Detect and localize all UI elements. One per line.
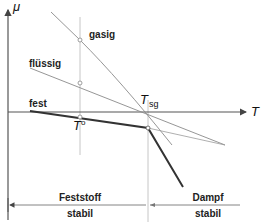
liquid-t-zero-point [78, 81, 82, 85]
diagram-canvas [0, 0, 268, 224]
solid-region-subtitle: stabil [67, 209, 93, 219]
solid-curve-label: fest [29, 99, 47, 109]
liquid-curve-label: flüssig [29, 59, 61, 69]
liquid-curve [30, 68, 225, 145]
solid-curve [30, 111, 183, 187]
vapor-region-arrowhead [150, 203, 155, 207]
t-zero-label: To [73, 119, 85, 132]
solid-region-title: Feststoff [59, 193, 101, 203]
liquid-solid-extension [148, 128, 225, 145]
gas-curve-label: gasig [89, 30, 115, 40]
x-axis-label: T [251, 105, 259, 118]
vapor-region-subtitle: stabil [195, 209, 221, 219]
t-sg-label: Tsg [140, 93, 158, 106]
t-sg-point [146, 126, 150, 130]
vapor-region-title: Dampf [192, 193, 223, 203]
y-axis-label: μ [13, 0, 20, 13]
gas-t-zero-point [78, 38, 82, 42]
